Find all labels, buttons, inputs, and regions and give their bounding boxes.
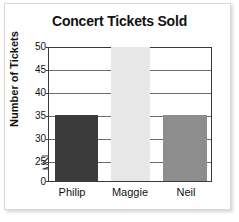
bar-philip xyxy=(55,115,98,181)
y-tick-45: 45 xyxy=(24,65,46,75)
chart-figure: Concert Tickets Sold Number of Tickets 5… xyxy=(0,0,239,222)
plot-area xyxy=(48,47,212,182)
y-tick-40: 40 xyxy=(24,88,46,98)
x-label-maggie: Maggie xyxy=(98,186,162,198)
bar-neil xyxy=(163,115,207,181)
x-label-neil: Neil xyxy=(158,186,214,198)
x-label-philip: Philip xyxy=(42,186,102,198)
y-axis-label: Number of Tickets xyxy=(8,24,20,134)
bar-maggie xyxy=(111,47,150,181)
y-tick-35: 35 xyxy=(24,111,46,121)
chart-title: Concert Tickets Sold xyxy=(0,13,239,29)
y-tick-30: 30 xyxy=(24,134,46,144)
y-tick-50: 50 xyxy=(24,42,46,52)
